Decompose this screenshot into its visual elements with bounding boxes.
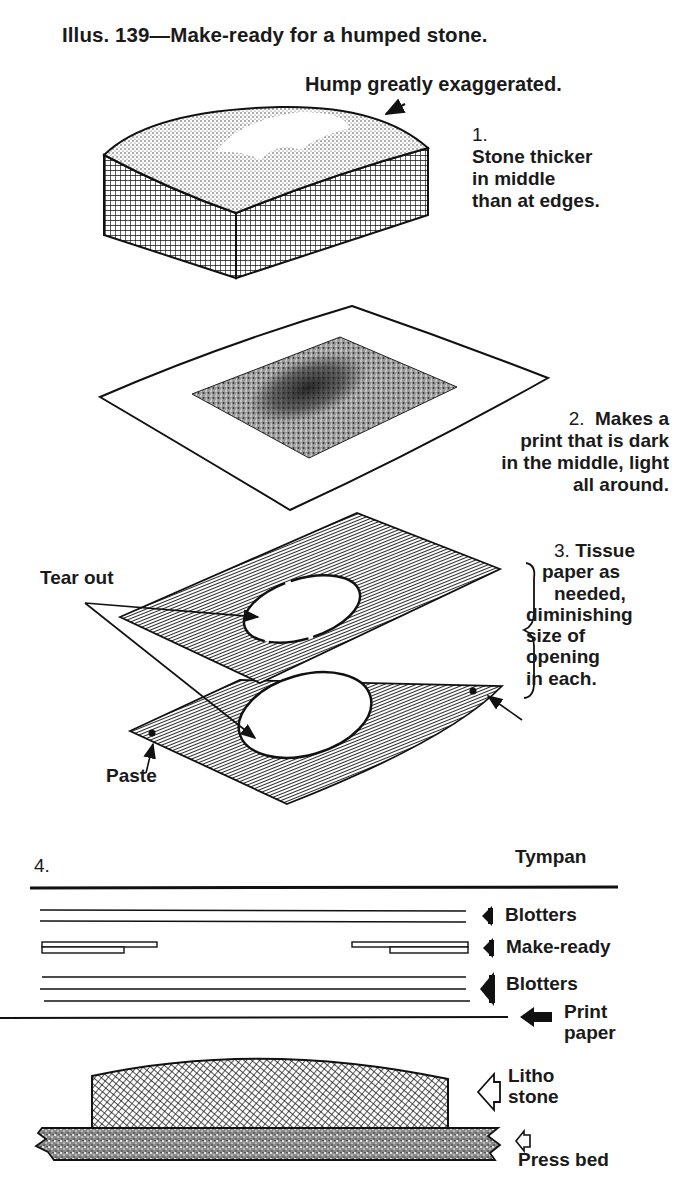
tympan-label: Tympan	[515, 847, 586, 868]
step3-caption: 3. Tissue paper as needed, diminishing s…	[530, 540, 635, 689]
litho-stone-label: Litho stone	[508, 1066, 559, 1108]
step1-number: 1.	[472, 124, 600, 146]
arrow-blotters-bottom-icon	[480, 972, 495, 1006]
arrow-press-bed-icon	[516, 1131, 530, 1151]
arrow-print-paper-icon	[520, 1007, 552, 1027]
paste-dot-left	[149, 730, 156, 737]
step2-line: print that is dark	[501, 430, 669, 452]
step3-line: size of	[526, 625, 635, 646]
litho-stone-label-line: stone	[508, 1087, 559, 1108]
step3-line: needed,	[530, 583, 635, 604]
litho-stone-section	[92, 1059, 448, 1128]
step3-line: in each.	[526, 668, 635, 689]
step3-line: paper as	[530, 561, 635, 582]
hump-callout-arrow	[386, 104, 405, 114]
humped-stone	[104, 107, 428, 278]
step2-line: Makes a	[595, 408, 669, 429]
step2-line: all around.	[501, 474, 669, 496]
step2-first-line: 2. Makes a	[501, 408, 669, 430]
step2-line: in the middle, light	[501, 452, 669, 474]
tear-out-label: Tear out	[40, 568, 114, 589]
step1-line: than at edges.	[472, 190, 600, 212]
print-paper-label-line: paper	[564, 1023, 616, 1044]
print-paper-label-line: Print	[564, 1002, 616, 1023]
step4-number: 4.	[34, 856, 50, 877]
blotters-top	[40, 910, 466, 922]
litho-stone-label-line: Litho	[508, 1066, 559, 1087]
hump-callout-label: Hump greatly exaggerated.	[305, 74, 562, 96]
figure-title: Illus. 139—Make-ready for a humped stone…	[62, 24, 488, 46]
step3-first-line: 3. Tissue	[530, 540, 635, 561]
arrow-litho-stone-icon	[478, 1074, 500, 1110]
blotters-bottom	[40, 977, 470, 1001]
tissue-sheet-lower	[130, 658, 502, 804]
tissue-sheet-upper	[120, 513, 500, 683]
paste-dot-right	[470, 688, 477, 695]
step3-line: Tissue	[575, 540, 635, 561]
blotters-top-label: Blotters	[505, 905, 577, 926]
make-ready-label: Make-ready	[506, 937, 611, 958]
step3-line: opening	[526, 646, 635, 667]
tympan-line	[30, 887, 618, 888]
step3-number: 3.	[554, 540, 570, 561]
step1-line: Stone thicker	[472, 146, 600, 168]
arrow-blotters-top-icon	[482, 906, 493, 926]
press-bed-label: Press bed	[518, 1150, 609, 1171]
paste-label: Paste	[106, 766, 157, 787]
step3-line: diminishing	[526, 604, 635, 625]
step2-number: 2.	[569, 408, 585, 429]
make-ready-strips	[42, 942, 468, 953]
print-paper-line	[0, 1017, 508, 1018]
arrow-make-ready-icon	[483, 938, 494, 958]
step1-caption: 1. Stone thicker in middle than at edges…	[472, 124, 600, 211]
print-sheet	[100, 306, 548, 510]
step2-caption: 2. Makes a print that is dark in the mid…	[501, 408, 669, 496]
step1-line: in middle	[472, 168, 600, 190]
press-bed-section	[36, 1128, 500, 1160]
print-paper-label: Print paper	[564, 1002, 616, 1044]
blotters-bottom-label: Blotters	[506, 974, 578, 995]
